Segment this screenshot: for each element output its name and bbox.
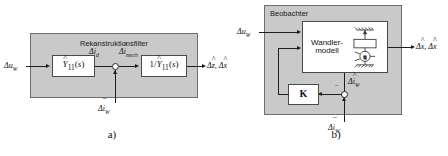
feedback-v-b bbox=[278, 48, 279, 95]
measured-current-line-b bbox=[344, 98, 345, 122]
output-label-b: Δ^x, Δ˙^x bbox=[416, 43, 437, 51]
feedback-label-a: Δ¯iW bbox=[98, 105, 110, 115]
gain-block-label: K bbox=[300, 89, 308, 100]
feedback-line-a bbox=[115, 70, 116, 103]
feedback-arrow-b bbox=[297, 46, 301, 50]
inverse-admittance-block-label: 1/^Y11(s) bbox=[150, 60, 179, 72]
input-line-a bbox=[26, 66, 48, 67]
output-line-b bbox=[388, 47, 413, 48]
measured-current-arrow-b bbox=[342, 97, 346, 101]
caption-b: b) bbox=[224, 128, 448, 140]
output-arrow-a bbox=[202, 64, 206, 68]
inverse-admittance-block: 1/^Y11(s) bbox=[141, 55, 187, 77]
admittance-block-label: ^Y11(s) bbox=[63, 60, 85, 72]
admittance-block: ^Y11(s) bbox=[52, 55, 95, 77]
gain-block: K bbox=[288, 84, 319, 105]
panel-a: Rekonstruktionsfilter ΔuW ^Y11(s) Δ^id −… bbox=[0, 0, 224, 156]
input-signal-label-b: ΔuW bbox=[237, 28, 250, 38]
input-arrow-a bbox=[46, 64, 50, 68]
output-arrow-b bbox=[411, 45, 415, 49]
input-signal-label-a: ΔuW bbox=[4, 62, 17, 72]
transducer-schematic-icon: u bbox=[348, 23, 382, 71]
beobachter-title: Beobachter bbox=[270, 9, 308, 18]
model-current-label-b: Δ^iW bbox=[348, 78, 360, 88]
transducer-model-block-label: Wandler-modell bbox=[309, 39, 345, 56]
internal-left-label-a: Δ^id bbox=[89, 48, 99, 58]
summation-node-a bbox=[112, 63, 119, 70]
panel-b: Beobachter ΔuW Wandler-modell bbox=[224, 0, 448, 156]
feedback-h-bottom-b bbox=[278, 94, 289, 95]
input-line-b bbox=[259, 32, 299, 33]
summation-minus-sign-b: − bbox=[335, 83, 339, 90]
internal-right-label-a: Δ^imech bbox=[119, 48, 138, 58]
feedback-arrow-a bbox=[113, 70, 117, 74]
block-diagram-figure: Rekonstruktionsfilter ΔuW ^Y11(s) Δ^id −… bbox=[0, 0, 448, 156]
caption-a: a) bbox=[0, 128, 224, 140]
mid-line-left-a bbox=[95, 66, 113, 67]
svg-text:u: u bbox=[364, 54, 367, 60]
mid-arrow-a bbox=[135, 64, 139, 68]
input-arrow-b bbox=[297, 30, 301, 34]
